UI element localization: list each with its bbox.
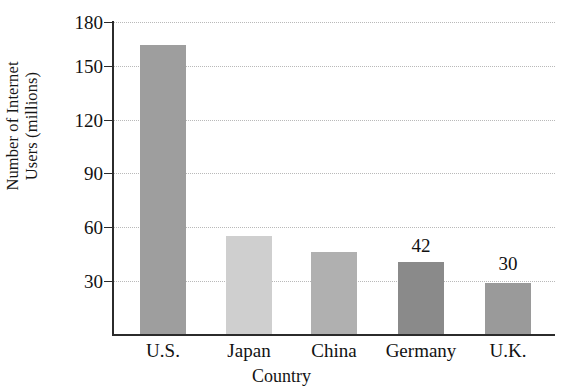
bar-value-germany: 42 xyxy=(412,236,431,255)
category-label-germany: Germany xyxy=(386,341,457,360)
y-axis-line xyxy=(112,21,114,336)
bar-uk xyxy=(485,283,531,335)
x-axis-title: Country xyxy=(0,367,563,385)
bar-chart-figure: Number of Internet Users (millions) 180 … xyxy=(0,0,563,392)
x-axis-line xyxy=(112,334,555,336)
category-label-china: China xyxy=(311,341,356,360)
bar-japan xyxy=(226,236,272,335)
category-label-japan: Japan xyxy=(227,341,270,360)
category-label-us: U.S. xyxy=(146,341,180,360)
bar-us xyxy=(140,45,186,335)
bar-china xyxy=(311,252,357,335)
bars-layer xyxy=(0,0,563,335)
bar-germany xyxy=(398,262,444,335)
category-label-uk: U.K. xyxy=(490,341,527,360)
bar-value-uk: 30 xyxy=(499,254,518,273)
